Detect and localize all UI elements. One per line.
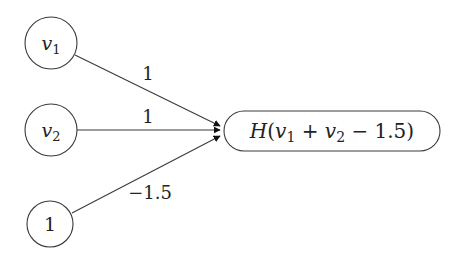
svg-text:H(v1 + v2 − 1.5): H(v1 + v2 − 1.5) xyxy=(249,119,414,145)
neuron-diagram: 1 1 −1.5 v1 v2 1 H(v1 + v2 − 1.5) xyxy=(0,0,462,258)
input-node-v1: v1 xyxy=(25,17,77,69)
input-node-v2: v2 xyxy=(25,104,77,156)
weight-label-v1: 1 xyxy=(142,63,153,84)
svg-text:1: 1 xyxy=(44,213,56,235)
bias-node: 1 xyxy=(27,201,73,247)
weight-label-v2: 1 xyxy=(142,106,153,127)
weight-label-bias: −1.5 xyxy=(128,182,172,203)
output-node: H(v1 + v2 − 1.5) xyxy=(224,111,440,151)
